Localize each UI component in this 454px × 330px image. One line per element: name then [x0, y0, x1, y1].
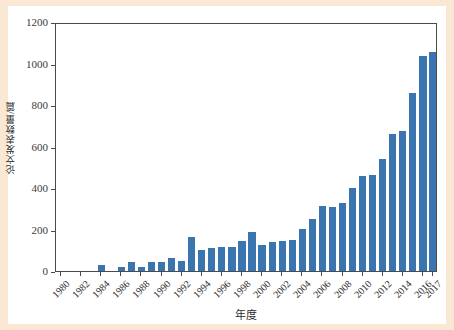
y-tick-label: 400 [32, 181, 49, 195]
x-tick-mark [140, 272, 141, 276]
y-tick-label: 1000 [26, 57, 48, 71]
bar [349, 188, 356, 271]
bar [128, 262, 135, 271]
bar [319, 206, 326, 271]
x-tick-label: 1990 [150, 278, 172, 300]
x-tick-label: 1980 [50, 278, 72, 300]
x-tick-mark [60, 272, 61, 276]
bar [289, 240, 296, 271]
bar [359, 176, 366, 271]
bar [248, 232, 255, 271]
x-tick-label: 2014 [392, 278, 414, 300]
x-tick-label: 2000 [251, 278, 273, 300]
bar [98, 265, 105, 271]
bar [228, 247, 235, 271]
bar [218, 247, 225, 271]
bar [188, 237, 195, 271]
x-tick-mark [281, 272, 282, 276]
bar [399, 131, 406, 271]
y-tick: 1200 [8, 23, 55, 24]
bar [429, 52, 436, 271]
y-tick-label: 0 [43, 264, 49, 278]
bar [369, 175, 376, 271]
bar [258, 245, 265, 271]
bar [168, 258, 175, 271]
y-tick-label: 1200 [26, 15, 48, 29]
y-tick: 200 [8, 231, 55, 232]
bar [279, 241, 286, 271]
bar [309, 219, 316, 271]
bar [148, 262, 155, 271]
y-tick: 0 [8, 272, 55, 273]
bar [178, 261, 185, 271]
x-tick-mark [161, 272, 162, 276]
bar-series [56, 24, 436, 271]
bar [198, 250, 205, 271]
x-tick-mark [100, 272, 101, 276]
bar [208, 248, 215, 271]
bar [389, 134, 396, 271]
bar [299, 229, 306, 271]
x-tick-mark [261, 272, 262, 276]
bar [158, 262, 165, 271]
x-tick-mark [422, 272, 423, 276]
bar [329, 207, 336, 271]
bar [238, 241, 245, 272]
bar [138, 267, 145, 271]
y-axis: 020040060080010001200 [8, 23, 55, 272]
bar [339, 203, 346, 271]
x-tick-mark [342, 272, 343, 276]
x-tick-label: 2012 [372, 278, 394, 300]
bar [269, 242, 276, 271]
y-tick: 400 [8, 189, 55, 190]
bar [419, 56, 426, 271]
bar [379, 159, 386, 271]
x-tick-label: 1994 [191, 278, 213, 300]
x-tick-label: 1986 [110, 278, 132, 300]
x-tick-label: 1984 [90, 278, 112, 300]
x-tick-mark [120, 272, 121, 276]
bar [118, 267, 125, 271]
plot-area [55, 23, 437, 272]
x-tick-mark [402, 272, 403, 276]
x-tick-mark [382, 272, 383, 276]
x-tick-mark [321, 272, 322, 276]
x-tick-mark [432, 272, 433, 276]
x-tick-mark [80, 272, 81, 276]
x-tick-mark [241, 272, 242, 276]
y-tick: 800 [8, 106, 55, 107]
x-tick-mark [201, 272, 202, 276]
y-tick: 1000 [8, 65, 55, 66]
x-tick-label: 1992 [171, 278, 193, 300]
x-tick-label: 1988 [130, 278, 152, 300]
x-tick-label: 1998 [231, 278, 253, 300]
bar [409, 93, 416, 271]
x-tick-label: 2010 [351, 278, 373, 300]
x-tick-mark [181, 272, 182, 276]
x-tick-label: 2006 [311, 278, 333, 300]
y-tick: 600 [8, 148, 55, 149]
x-tick-mark [301, 272, 302, 276]
x-tick-mark [362, 272, 363, 276]
y-tick-label: 800 [32, 98, 49, 112]
x-tick-mark [221, 272, 222, 276]
figure-panel: 论文发表数量/篇 020040060080010001200 198019821… [8, 6, 446, 324]
x-tick-label: 2008 [331, 278, 353, 300]
x-tick-label: 1996 [211, 278, 233, 300]
y-tick-label: 200 [32, 223, 49, 237]
x-tick-label: 2004 [291, 278, 313, 300]
x-axis-title: 年度 [55, 306, 437, 322]
y-tick-label: 600 [32, 140, 49, 154]
x-tick-label: 1982 [70, 278, 92, 300]
x-tick-label: 2002 [271, 278, 293, 300]
